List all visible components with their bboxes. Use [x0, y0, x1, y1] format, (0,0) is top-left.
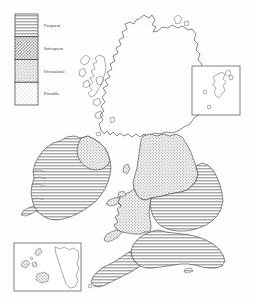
legend-label-occasional: Occasional: [44, 69, 65, 74]
legend-swatch-infrequent: [15, 37, 38, 60]
shetland-inset: [192, 66, 240, 115]
distribution-map-figure: Frequent Infrequent Occasional Possible: [0, 0, 253, 303]
legend-label-possible: Possible: [44, 91, 59, 96]
legend-label-frequent: Frequent: [44, 23, 61, 28]
legend-swatch-occasional: [15, 60, 38, 83]
legend-swatch-possible: [15, 82, 38, 105]
legend-swatch-frequent: [15, 14, 38, 37]
legend-label-infrequent: Infrequent: [44, 46, 64, 51]
channel-islands-inset: [14, 243, 81, 291]
channel-island-herm: [32, 262, 37, 267]
shetland-inset-frame: [192, 66, 240, 115]
map-canvas: Frequent Infrequent Occasional Possible: [0, 0, 253, 303]
